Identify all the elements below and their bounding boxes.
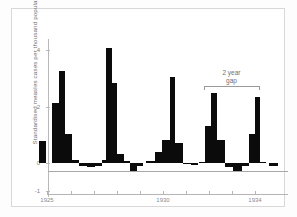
x-tick-label: 1930 — [151, 197, 175, 204]
gap-annotation-line1: 2 year — [222, 69, 240, 76]
bar — [52, 103, 59, 163]
bar — [155, 152, 162, 163]
x-tick-label: 1934 — [243, 197, 267, 204]
bar — [95, 163, 102, 166]
x-tick-mark — [255, 191, 256, 195]
y-axis-line — [48, 39, 49, 197]
gap-annotation-line2: gap — [226, 77, 237, 84]
figure-container: Standardised measles cases per thousand … — [0, 0, 297, 217]
y-tick-mark — [46, 107, 50, 108]
x-tick-mark — [71, 191, 72, 195]
y-axis-title: Standardised measles cases per thousand … — [31, 5, 38, 145]
x-axis-ruler-line — [48, 194, 288, 195]
x-tick-mark — [94, 191, 95, 195]
bar — [233, 163, 242, 171]
bar — [112, 83, 117, 163]
y-tick-label: 0 — [26, 160, 40, 166]
y-tick-label: 2 — [26, 104, 40, 110]
x-tick-mark — [232, 191, 233, 195]
gap-annotation-label: 2 year gap — [202, 69, 262, 84]
bar — [191, 163, 198, 165]
bracket-right-tick — [259, 86, 260, 90]
bar — [130, 163, 137, 171]
bar — [79, 163, 87, 166]
bar — [217, 140, 225, 163]
y-tick-mark — [46, 163, 50, 164]
x-tick-mark — [163, 191, 164, 195]
bracket-horizontal-line — [204, 86, 259, 87]
y-tick-label: 4 — [26, 47, 40, 53]
bar — [162, 140, 170, 163]
bar — [260, 162, 266, 163]
bar — [175, 143, 183, 163]
bar — [39, 141, 46, 163]
y-tick-mark — [46, 50, 50, 51]
bar — [72, 160, 79, 163]
figure-frame: Standardised measles cases per thousand … — [11, 8, 285, 207]
x-tick-mark — [186, 191, 187, 195]
bar — [65, 134, 72, 163]
bar — [117, 154, 124, 163]
bracket-left-tick — [204, 86, 205, 90]
bar — [146, 161, 155, 163]
bar — [87, 163, 95, 167]
bar — [269, 163, 278, 166]
bar — [225, 163, 233, 167]
bar — [242, 163, 249, 166]
y-tick-label: -1 — [26, 188, 40, 194]
x-tick-mark — [209, 191, 210, 195]
x-axis-baseline — [48, 171, 288, 172]
bar — [255, 97, 260, 163]
bar — [137, 163, 143, 166]
bar — [183, 163, 191, 164]
x-tick-label: 1925 — [35, 197, 59, 204]
x-tick-mark — [117, 191, 118, 195]
x-tick-mark — [140, 191, 141, 195]
x-tick-mark — [47, 191, 48, 195]
